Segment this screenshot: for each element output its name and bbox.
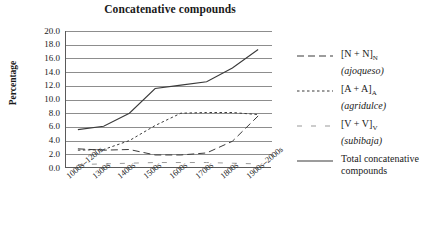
legend-line-swatch xyxy=(297,48,337,58)
series-line xyxy=(78,113,258,151)
legend-line-swatch xyxy=(297,118,337,128)
legend-label: [A + A]A(agridulce) xyxy=(337,83,386,111)
legend-label-main: Total concatenative compounds xyxy=(341,153,419,176)
y-tick-label: 4.0 xyxy=(20,136,60,145)
y-tick-label: 20.0 xyxy=(20,27,60,36)
legend-label-subscript: V xyxy=(372,124,377,132)
legend-item[interactable]: [A + A]A(agridulce) xyxy=(297,83,441,111)
chart-figure: Concatenative compounds Percentage 20.01… xyxy=(0,0,441,244)
series-line xyxy=(78,50,258,130)
legend-label-example: (subibaja) xyxy=(341,135,382,146)
y-tick-label: 18.0 xyxy=(20,40,60,49)
legend-item[interactable]: [V + V]V(subibaja) xyxy=(297,118,441,146)
chart-legend: [N + N]N(ajoqueso)[A + A]A(agridulce)[V … xyxy=(297,48,441,183)
legend-label: [N + N]N(ajoqueso) xyxy=(337,48,384,76)
legend-item[interactable]: Total concatenative compounds xyxy=(297,153,441,176)
y-tick-label: 6.0 xyxy=(20,122,60,131)
y-tick-label: 8.0 xyxy=(20,109,60,118)
chart-title: Concatenative compounds xyxy=(60,3,280,15)
y-tick-label: 14.0 xyxy=(20,68,60,77)
legend-label-example: (ajoqueso) xyxy=(341,65,384,76)
legend-item[interactable]: [N + N]N(ajoqueso) xyxy=(297,48,441,76)
legend-label: Total concatenative compounds xyxy=(337,153,441,176)
y-axis-label: Percentage xyxy=(8,48,18,118)
legend-label-example: (agridulce) xyxy=(341,100,386,111)
legend-line-swatch xyxy=(297,83,337,93)
y-tick-label: 10.0 xyxy=(20,95,60,104)
legend-label-main: [N + N] xyxy=(341,48,373,59)
y-tick-label: 12.0 xyxy=(20,81,60,90)
legend-label: [V + V]V(subibaja) xyxy=(337,118,382,146)
y-tick-label: 16.0 xyxy=(20,54,60,63)
legend-line-swatch xyxy=(297,153,337,163)
legend-label-main: [V + V] xyxy=(341,118,372,129)
legend-label-subscript: N xyxy=(373,54,378,62)
y-tick-label: 0.0 xyxy=(20,164,60,173)
y-tick-label: 2.0 xyxy=(20,150,60,159)
legend-label-subscript: A xyxy=(372,89,377,97)
legend-label-main: [A + A] xyxy=(341,83,372,94)
